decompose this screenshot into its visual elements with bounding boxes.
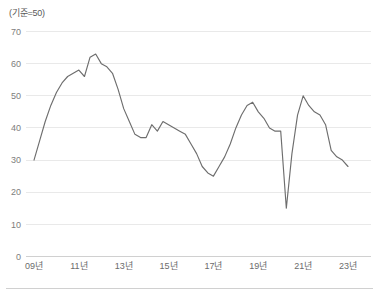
x-axis-tick-label: 09년 bbox=[25, 261, 43, 271]
data-series-group bbox=[34, 54, 348, 208]
series-line bbox=[34, 54, 348, 208]
x-axis-tick-label: 23년 bbox=[339, 261, 357, 271]
y-axis-tick-label: 10 bbox=[11, 220, 21, 230]
x-axis-ticks: 09년11년13년15년17년19년21년23년 bbox=[25, 261, 357, 271]
x-axis-tick-label: 19년 bbox=[249, 261, 267, 271]
y-axis-ticks: 010203040506070 bbox=[11, 27, 21, 262]
y-axis-tick-label: 50 bbox=[11, 91, 21, 101]
x-axis-tick-label: 13년 bbox=[115, 261, 133, 271]
chart-plot-area: 010203040506070 09년11년13년15년17년19년21년23년 bbox=[0, 0, 379, 295]
y-axis-tick-label: 60 bbox=[11, 59, 21, 69]
x-axis-tick-label: 11년 bbox=[70, 261, 87, 271]
x-axis-tick-label: 21년 bbox=[294, 261, 312, 271]
y-axis-tick-label: 20 bbox=[11, 187, 21, 197]
line-chart: (기준=50) 010203040506070 09년11년13년15년17년1… bbox=[0, 0, 379, 295]
x-axis-tick-label: 17년 bbox=[204, 261, 222, 271]
unit-label: (기준=50) bbox=[9, 6, 45, 19]
y-axis-tick-label: 30 bbox=[11, 155, 21, 165]
y-axis-tick-label: 0 bbox=[16, 252, 21, 262]
y-axis-tick-label: 40 bbox=[11, 123, 21, 133]
gridlines bbox=[6, 32, 373, 289]
x-axis-tick-label: 15년 bbox=[160, 261, 178, 271]
y-axis-tick-label: 70 bbox=[11, 27, 21, 37]
